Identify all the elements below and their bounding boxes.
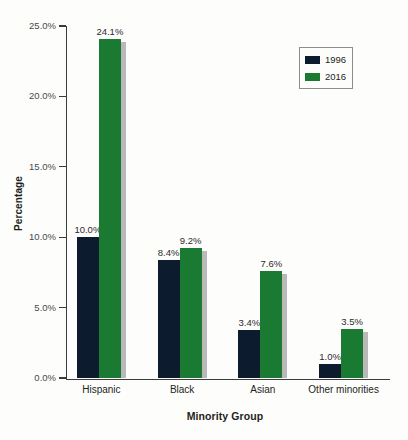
bar-value-label: 24.1% bbox=[80, 26, 140, 37]
bar-shadow bbox=[363, 332, 368, 378]
x-axis-line bbox=[66, 379, 390, 380]
legend-swatch-2016 bbox=[305, 73, 320, 81]
y-axis-tick bbox=[59, 377, 66, 378]
bar-group: 8.4%9.2% bbox=[158, 26, 207, 378]
bar-rect bbox=[260, 271, 282, 378]
bar-1996-black[interactable] bbox=[158, 260, 180, 378]
bar-2016-asian[interactable] bbox=[260, 271, 282, 378]
bar-1996-hispanic[interactable] bbox=[77, 237, 99, 378]
bar-2016-black[interactable] bbox=[180, 248, 202, 378]
bar-1996-asian[interactable] bbox=[238, 330, 260, 378]
legend-item-2016: 2016 bbox=[305, 72, 346, 81]
y-axis-tick bbox=[59, 166, 66, 167]
y-axis-tick bbox=[59, 25, 66, 26]
bar-rect bbox=[99, 39, 121, 378]
bar-chart: Percentage Minority Group 0.0%5.0%10.0%1… bbox=[0, 0, 408, 440]
bar-group: 3.4%7.6% bbox=[238, 26, 287, 378]
bar-value-label: 9.2% bbox=[161, 235, 221, 246]
x-axis-label-other-minorities: Other minorities bbox=[284, 384, 404, 395]
bar-value-label: 3.5% bbox=[322, 316, 382, 327]
bar-rect bbox=[180, 248, 202, 378]
bar-1996-other-minorities[interactable] bbox=[319, 364, 341, 378]
bar-shadow bbox=[121, 42, 126, 378]
y-axis-tick-label: 10.0% bbox=[0, 231, 56, 242]
legend-label-1996: 1996 bbox=[325, 54, 346, 65]
y-axis-tick bbox=[59, 307, 66, 308]
y-axis-tick-label: 25.0% bbox=[0, 20, 56, 31]
legend-label-2016: 2016 bbox=[325, 71, 346, 82]
bar-shadow bbox=[282, 274, 287, 378]
bar-value-label: 7.6% bbox=[241, 258, 301, 269]
y-axis-tick-label: 0.0% bbox=[0, 372, 56, 383]
y-axis-tick-label: 20.0% bbox=[0, 90, 56, 101]
legend-item-1996: 1996 bbox=[305, 55, 346, 64]
bar-2016-other-minorities[interactable] bbox=[341, 329, 363, 378]
y-axis-tick-label: 5.0% bbox=[0, 302, 56, 313]
bar-group: 10.0%24.1% bbox=[77, 26, 126, 378]
bar-rect bbox=[238, 330, 260, 378]
bar-rect bbox=[77, 237, 99, 378]
bar-shadow bbox=[202, 251, 207, 378]
bar-2016-hispanic[interactable] bbox=[99, 39, 121, 378]
bar-rect bbox=[319, 364, 341, 378]
bar-rect bbox=[341, 329, 363, 378]
y-axis-tick bbox=[59, 237, 66, 238]
y-axis-tick-label: 15.0% bbox=[0, 161, 56, 172]
legend-swatch-1996 bbox=[305, 56, 320, 64]
chart-legend: 1996 2016 bbox=[299, 47, 353, 89]
y-axis-tick bbox=[59, 96, 66, 97]
bar-rect bbox=[158, 260, 180, 378]
x-axis-title: Minority Group bbox=[60, 410, 390, 422]
